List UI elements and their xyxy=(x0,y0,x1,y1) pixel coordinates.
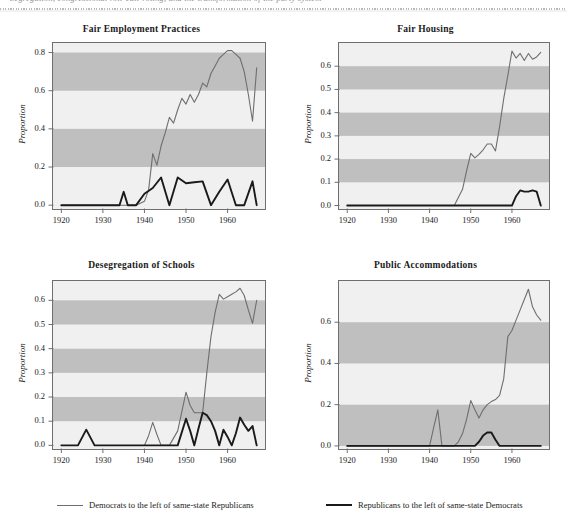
x-tick-label: 1930 xyxy=(370,455,406,465)
x-tick-label: 1960 xyxy=(494,215,530,225)
panel-title: Fair Housing xyxy=(284,24,567,34)
panel-title: Desegregation of Schools xyxy=(0,260,283,270)
y-tick-label: 0.3 xyxy=(295,130,331,140)
legend-item-democrats: Democrats to the left of same-state Repu… xyxy=(57,500,254,510)
y-tick-label: 0.0 xyxy=(9,199,45,209)
y-tick-label: 0.2 xyxy=(9,391,45,401)
legend-line-swatch xyxy=(57,505,83,506)
plot-area xyxy=(52,42,266,210)
x-tick-label: 1960 xyxy=(210,455,246,465)
x-tick-label: 1960 xyxy=(494,455,530,465)
panel-public-accommodations: Public Accommodations Proportion 0.00.20… xyxy=(284,260,567,496)
y-tick-label: 0.1 xyxy=(295,176,331,186)
x-tick-label: 1950 xyxy=(168,455,204,465)
y-tick-label: 0.6 xyxy=(9,294,45,304)
y-tick-label: 0.0 xyxy=(295,440,331,450)
x-tick-label: 1950 xyxy=(453,215,489,225)
chart-canvas xyxy=(53,281,265,449)
chart-canvas xyxy=(339,281,549,449)
legend-item-label: Democrats to the left of same-state Repu… xyxy=(89,500,254,510)
series-line-republicans xyxy=(347,190,541,205)
y-tick-label: 0.3 xyxy=(9,367,45,377)
x-tick-label: 1930 xyxy=(85,455,121,465)
y-tick-label: 0.1 xyxy=(9,415,45,425)
plot-area xyxy=(338,280,550,450)
plot-area xyxy=(338,42,550,210)
legend-item-label: Republicans to the left of same-state De… xyxy=(358,500,523,510)
background-bands xyxy=(53,53,265,167)
y-tick-label: 0.6 xyxy=(295,60,331,70)
background-bands xyxy=(339,322,549,446)
x-tick-label: 1920 xyxy=(329,215,365,225)
series-line-republicans xyxy=(61,178,256,206)
y-tick-label: 0.4 xyxy=(9,343,45,353)
panel-fair-employment-practices: Fair Employment Practices Proportion 0.0… xyxy=(0,24,283,256)
panel-title: Public Accommodations xyxy=(284,260,567,270)
panel-fair-housing: Fair Housing Proportion 0.00.10.20.30.40… xyxy=(284,24,567,256)
y-tick-label: 0.4 xyxy=(295,107,331,117)
y-tick-label: 0.4 xyxy=(9,123,45,133)
y-tick-label: 0.0 xyxy=(9,439,45,449)
y-tick-label: 0.2 xyxy=(295,153,331,163)
y-tick-label: 0.4 xyxy=(295,357,331,367)
legend-line-swatch xyxy=(326,504,352,506)
x-tick-label: 1940 xyxy=(412,455,448,465)
y-tick-label: 0.2 xyxy=(295,399,331,409)
x-tick-label: 1940 xyxy=(126,215,162,225)
x-tick-label: 1920 xyxy=(43,455,79,465)
y-tick-label: 0.8 xyxy=(9,47,45,57)
y-tick-label: 0.0 xyxy=(295,200,331,210)
panel-title: Fair Employment Practices xyxy=(0,24,283,34)
background-bands xyxy=(53,300,265,421)
running-header: Segregation, congressional roll-call vot… xyxy=(0,0,567,12)
panel-desegregation-of-schools: Desegregation of Schools Proportion 0.00… xyxy=(0,260,283,496)
x-tick-label: 1940 xyxy=(126,455,162,465)
x-tick-label: 1950 xyxy=(453,455,489,465)
x-tick-label: 1920 xyxy=(43,215,79,225)
x-tick-label: 1940 xyxy=(412,215,448,225)
x-tick-label: 1950 xyxy=(168,215,204,225)
x-tick-label: 1930 xyxy=(370,215,406,225)
y-tick-label: 0.2 xyxy=(9,161,45,171)
background-bands xyxy=(339,66,549,182)
figure-legend: Democrats to the left of same-state Repu… xyxy=(0,498,567,518)
figure-page: Segregation, congressional roll-call vot… xyxy=(0,0,567,524)
running-header-shade xyxy=(0,10,567,12)
y-tick-label: 0.5 xyxy=(9,319,45,329)
x-tick-label: 1930 xyxy=(85,215,121,225)
x-tick-label: 1960 xyxy=(210,215,246,225)
legend-item-republicans: Republicans to the left of same-state De… xyxy=(326,500,523,510)
running-header-text: Segregation, congressional roll-call vot… xyxy=(10,0,322,3)
chart-canvas xyxy=(339,43,549,209)
y-tick-label: 0.6 xyxy=(295,316,331,326)
x-tick-label: 1920 xyxy=(329,455,365,465)
y-tick-label: 0.5 xyxy=(295,83,331,93)
y-tick-label: 0.6 xyxy=(9,85,45,95)
plot-area xyxy=(52,280,266,450)
chart-canvas xyxy=(53,43,265,209)
